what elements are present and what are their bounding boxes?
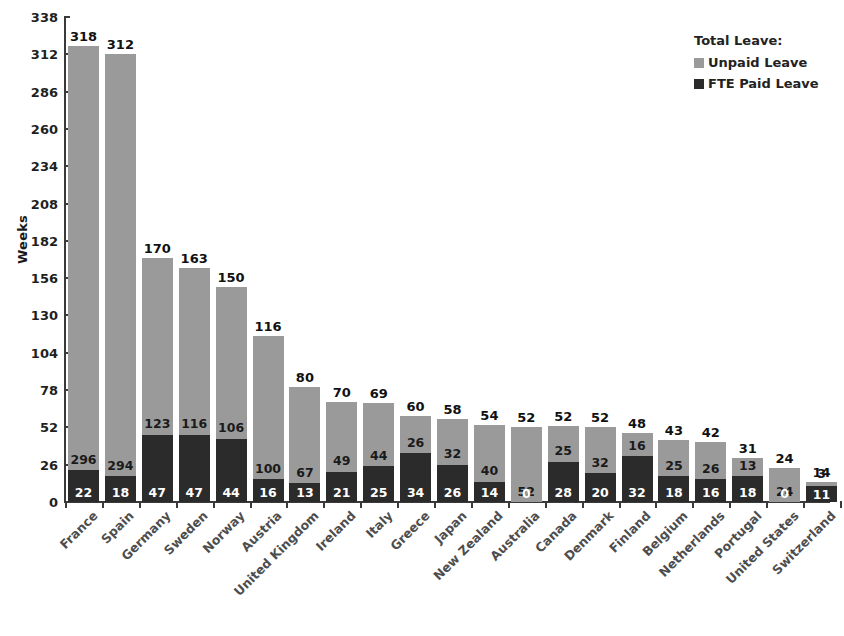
bar-segment-fte-paid[interactable]: 21: [326, 472, 357, 502]
bar-segment-fte-paid-value: 14: [474, 487, 505, 500]
bar-segment-fte-paid-value: 34: [400, 487, 431, 500]
bar-segment-fte-paid[interactable]: 14: [474, 482, 505, 502]
bar-group[interactable]: 481632: [622, 433, 653, 502]
bar-segment-unpaid[interactable]: 32: [585, 427, 616, 473]
x-axis-tick-mark: [286, 501, 288, 508]
legend-label-unpaid: Unpaid Leave: [708, 55, 807, 70]
bar-group[interactable]: 16311647: [179, 268, 210, 502]
bar-segment-unpaid-value: 100: [253, 463, 284, 476]
bar-segment-fte-paid-value: 22: [68, 487, 99, 500]
bar-group[interactable]: 602634: [400, 416, 431, 502]
bar-segment-unpaid[interactable]: 100: [253, 336, 284, 479]
bar-segment-fte-paid[interactable]: 47: [179, 435, 210, 502]
bar-group[interactable]: 583226: [437, 419, 468, 502]
bar-segment-fte-paid-value: 18: [732, 487, 763, 500]
bar-group[interactable]: 14311: [806, 482, 837, 502]
x-axis-tick-mark: [766, 501, 768, 508]
bar-group[interactable]: 432518: [658, 440, 689, 502]
bar-segment-unpaid-value: 25: [548, 445, 579, 458]
bar-group[interactable]: 31229418: [105, 54, 136, 502]
x-axis-tick-mark: [840, 501, 842, 508]
bar-segment-unpaid-value: 116: [179, 418, 210, 431]
bar-segment-unpaid[interactable]: 294: [105, 54, 136, 476]
bar-segment-unpaid-value: 123: [142, 418, 173, 431]
bar-group[interactable]: 17012347: [142, 258, 173, 502]
x-axis-tick-mark: [692, 501, 694, 508]
bar-segment-unpaid[interactable]: 123: [142, 258, 173, 434]
bar-group[interactable]: 31829622: [68, 46, 99, 502]
chart-legend: Total Leave: Unpaid Leave FTE Paid Leave: [660, 33, 835, 97]
bar-group[interactable]: 52520: [511, 427, 542, 502]
bar-segment-fte-paid[interactable]: 16: [695, 479, 726, 502]
legend-entry-unpaid[interactable]: Unpaid Leave: [694, 55, 835, 70]
y-axis-tick-label: 286: [0, 84, 66, 99]
bar-segment-unpaid[interactable]: 296: [68, 46, 99, 471]
bar-segment-unpaid-value: 106: [216, 422, 247, 435]
bar-group[interactable]: 522528: [548, 426, 579, 502]
bar-segment-fte-paid[interactable]: 26: [437, 465, 468, 502]
bar-segment-unpaid[interactable]: 49: [326, 402, 357, 472]
bar-segment-fte-paid-value: 47: [142, 487, 173, 500]
y-axis-tick-label: 260: [0, 121, 66, 136]
bar-total-label: 150: [206, 271, 257, 284]
bar-group[interactable]: 11610016: [253, 336, 284, 502]
bar-segment-fte-paid[interactable]: 13: [289, 483, 320, 502]
bar-group[interactable]: 704921: [326, 402, 357, 502]
legend-swatch-fte-paid-icon: [694, 79, 704, 89]
x-axis-tick-mark: [102, 501, 104, 508]
legend-entry-fte-paid[interactable]: FTE Paid Leave: [694, 76, 835, 91]
bar-segment-fte-paid-value: 16: [695, 487, 726, 500]
legend-label-fte-paid: FTE Paid Leave: [708, 76, 819, 91]
bar-segment-fte-paid[interactable]: 18: [732, 476, 763, 502]
bar-segment-fte-paid-value: 21: [326, 487, 357, 500]
bar-segment-fte-paid[interactable]: 18: [105, 476, 136, 502]
bar-segment-unpaid[interactable]: 26: [400, 416, 431, 453]
bar-segment-fte-paid[interactable]: 25: [363, 466, 394, 502]
bar-segment-fte-paid-value: 28: [548, 487, 579, 500]
legend-swatch-unpaid-icon: [694, 58, 704, 68]
bar-segment-fte-paid[interactable]: 34: [400, 453, 431, 502]
bar-segment-fte-paid-value: 25: [363, 487, 394, 500]
bar-segment-unpaid[interactable]: 25: [548, 426, 579, 462]
x-axis-tick-mark: [582, 501, 584, 508]
x-axis-tick-mark: [360, 501, 362, 508]
bar-segment-fte-paid[interactable]: 28: [548, 462, 579, 502]
x-axis-tick-mark: [508, 501, 510, 508]
bar-segment-unpaid[interactable]: 116: [179, 268, 210, 434]
bar-segment-fte-paid[interactable]: 11: [806, 486, 837, 502]
bar-group[interactable]: 694425: [363, 403, 394, 502]
bar-total-label: 42: [685, 426, 736, 439]
x-axis-tick-mark: [65, 501, 67, 508]
bar-total-label: 312: [95, 38, 146, 51]
bar-segment-unpaid[interactable]: 67: [289, 387, 320, 483]
y-axis-tick-label: 130: [0, 308, 66, 323]
bar-segment-fte-paid[interactable]: 47: [142, 435, 173, 502]
x-axis-tick-mark: [434, 501, 436, 508]
bar-segment-fte-paid[interactable]: 44: [216, 439, 247, 502]
bar-total-label: 24: [759, 452, 810, 465]
bar-group[interactable]: 544014: [474, 425, 505, 502]
bar-total-label: 163: [169, 252, 220, 265]
bar-segment-fte-paid[interactable]: 16: [253, 479, 284, 502]
bar-segment-fte-paid-value: 11: [806, 489, 837, 502]
bar-segment-unpaid[interactable]: 40: [474, 425, 505, 482]
bar-segment-unpaid[interactable]: 106: [216, 287, 247, 439]
x-axis-tick-mark: [619, 501, 621, 508]
bar-segment-fte-paid-value: 26: [437, 487, 468, 500]
bar-segment-unpaid[interactable]: 32: [437, 419, 468, 465]
stacked-bar-chart: Weeks 0265278104130156182208234260286312…: [0, 0, 844, 636]
bar-segment-fte-paid[interactable]: 20: [585, 473, 616, 502]
bar-segment-fte-paid-value: 18: [105, 487, 136, 500]
bar-segment-unpaid[interactable]: 25: [658, 440, 689, 476]
bar-group[interactable]: 806713: [289, 387, 320, 502]
x-axis-tick-mark: [397, 501, 399, 508]
y-axis-tick-label: 234: [0, 159, 66, 174]
x-axis-label-text: Italy: [362, 508, 395, 541]
bar-group[interactable]: 523220: [585, 427, 616, 502]
bar-segment-fte-paid[interactable]: 22: [68, 470, 99, 502]
bar-segment-unpaid-value: 32: [437, 448, 468, 461]
bar-segment-fte-paid[interactable]: 18: [658, 476, 689, 502]
x-axis-tick-mark: [323, 501, 325, 508]
bar-segment-unpaid-value: 16: [622, 440, 653, 453]
bar-segment-fte-paid[interactable]: 32: [622, 456, 653, 502]
